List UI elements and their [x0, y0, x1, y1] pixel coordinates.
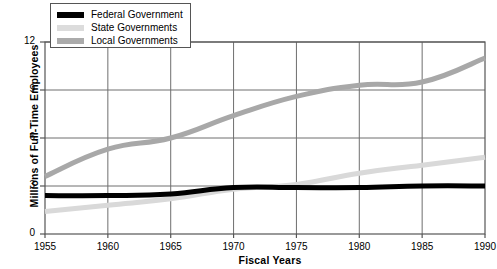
- legend-item: Federal Government: [57, 8, 184, 21]
- legend-item-label: Federal Government: [91, 9, 183, 21]
- data-series-group: [45, 58, 485, 212]
- legend-swatch-icon: [57, 25, 84, 31]
- series-line-federal-government: [45, 186, 485, 196]
- legend-item: Local Governments: [57, 34, 184, 47]
- legend-item-label: Local Governments: [91, 35, 178, 47]
- chart-container: Millions of Full-Time Employees Fiscal Y…: [0, 0, 497, 269]
- legend-swatch-icon: [57, 38, 84, 44]
- chart-legend: Federal GovernmentState GovernmentsLocal…: [50, 3, 191, 48]
- legend-item-label: State Governments: [91, 22, 177, 34]
- axis-tick-marks: [40, 42, 485, 238]
- legend-swatch-icon: [57, 12, 84, 18]
- legend-item: State Governments: [57, 21, 184, 34]
- series-line-local-governments: [45, 58, 485, 176]
